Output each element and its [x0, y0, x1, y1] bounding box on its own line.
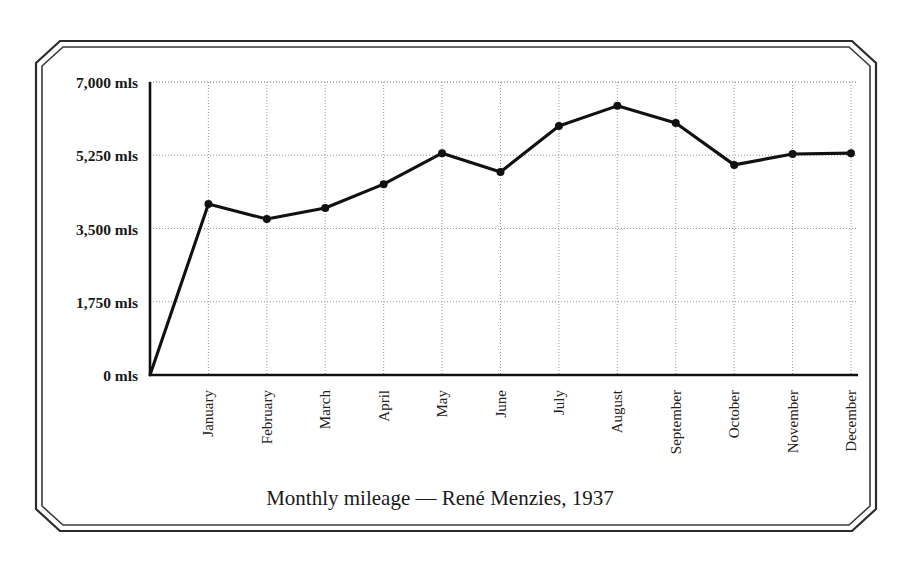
data-point-december	[847, 149, 855, 157]
y-tick-label: 1,750 mls	[76, 294, 138, 311]
data-point-january	[204, 200, 212, 208]
data-point-august	[613, 102, 621, 110]
chart-title: Monthly mileage — René Menzies, 1937	[266, 486, 614, 510]
x-tick-label-february: February	[259, 390, 275, 445]
x-tick-label-november: November	[785, 390, 801, 453]
x-tick-label-july: July	[551, 390, 567, 416]
x-tick-label-may: May	[434, 390, 450, 418]
data-point-june	[497, 168, 505, 176]
data-point-february	[263, 215, 271, 223]
x-tick-label-march: March	[317, 390, 333, 430]
x-tick-label-september: September	[668, 390, 684, 454]
line-chart: 0 mls1,750 mls3,500 mls5,250 mls7,000 ml…	[0, 0, 911, 570]
x-tick-label-october: October	[726, 390, 742, 438]
figure-container: 0 mls1,750 mls3,500 mls5,250 mls7,000 ml…	[0, 0, 911, 570]
data-point-markers	[204, 102, 855, 223]
x-tick-label-august: August	[609, 389, 625, 433]
x-tick-labels: JanuaryFebruaryMarchAprilMayJuneJulyAugu…	[200, 389, 859, 454]
data-point-november	[789, 150, 797, 158]
y-tick-label: 3,500 mls	[76, 221, 138, 238]
data-point-april	[380, 180, 388, 188]
data-point-march	[321, 204, 329, 212]
x-tick-label-april: April	[376, 390, 392, 422]
y-tick-labels: 0 mls1,750 mls3,500 mls5,250 mls7,000 ml…	[76, 74, 138, 384]
data-point-may	[438, 149, 446, 157]
y-tick-label: 7,000 mls	[76, 74, 138, 91]
x-tick-label-june: June	[493, 390, 509, 418]
grid-lines	[150, 82, 858, 375]
x-tick-label-january: January	[200, 390, 216, 437]
data-point-october	[730, 161, 738, 169]
x-tick-label-december: December	[843, 390, 859, 452]
y-tick-label: 0 mls	[103, 367, 138, 384]
y-tick-label: 5,250 mls	[76, 147, 138, 164]
data-point-july	[555, 122, 563, 130]
data-point-september	[672, 119, 680, 127]
